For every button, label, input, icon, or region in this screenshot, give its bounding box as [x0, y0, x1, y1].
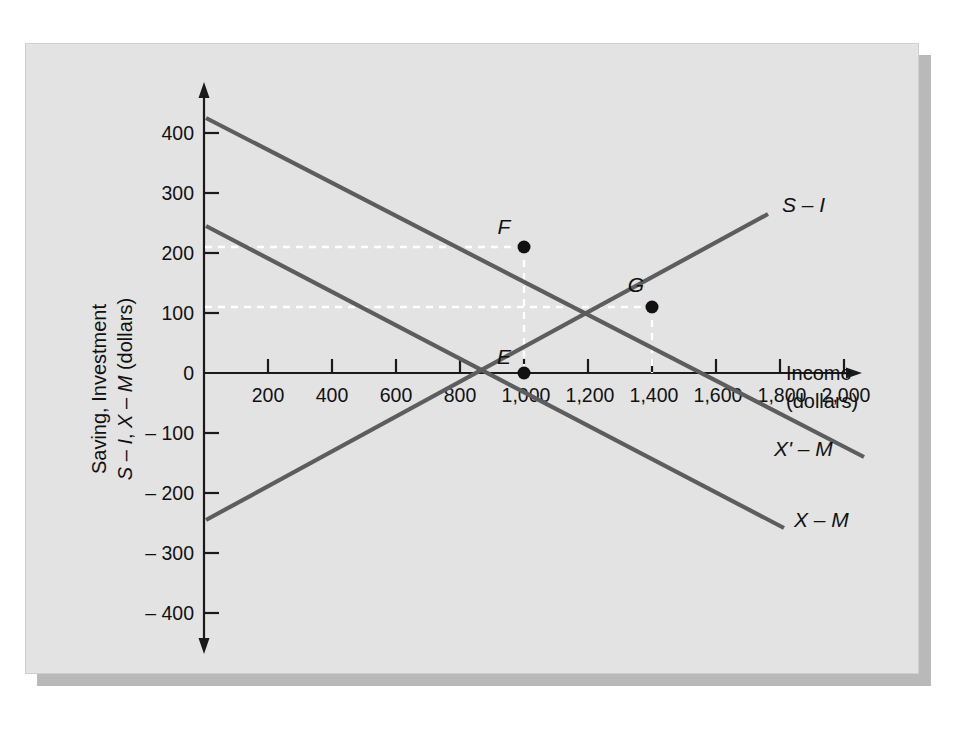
x-tick-label-200: 200 — [252, 384, 285, 406]
x-tick-label-1400: 1,400 — [630, 384, 679, 406]
point-marker-e — [518, 367, 531, 380]
curve-label-x-minus-m: X – M — [793, 508, 849, 531]
x-axis-title-line2: (dollars) — [786, 390, 858, 412]
y-axis-arrow-up — [199, 82, 210, 98]
point-marker-g — [646, 301, 659, 314]
y-axis-title-line1: Saving, Investment — [88, 304, 110, 475]
y-tick-label-neg300: – 300 — [145, 542, 194, 564]
y-tick-label-0: 0 — [183, 362, 194, 384]
curve-label-s-minus-i: S – I — [782, 193, 825, 216]
chart-panel: 400 300 200 100 0 – 100 – 200 – 300 – 40… — [25, 43, 919, 674]
y-axis-tick-labels: 400 300 200 100 0 – 100 – 200 – 300 – 40… — [145, 122, 194, 624]
y-title-units: (dollars) — [114, 298, 136, 376]
chart-plot-area: 400 300 200 100 0 – 100 – 200 – 300 – 40… — [26, 44, 919, 674]
x-axis-title-line1: Income — [786, 362, 852, 384]
x-axis — [204, 368, 862, 379]
y-axis-title: Saving, Investment S – I, X – M (dollars… — [88, 298, 136, 480]
x-tick-label-600: 600 — [380, 384, 413, 406]
y-title-dash-2: – — [114, 392, 136, 414]
y-title-sym-x: X — [114, 414, 136, 429]
y-axis — [199, 82, 210, 654]
curve-x-minus-m — [206, 226, 784, 528]
point-label-e: E — [497, 345, 512, 368]
y-axis-arrow-down — [199, 638, 210, 654]
y-title-dash-1: – — [114, 445, 136, 467]
y-tick-label-300: 300 — [161, 182, 194, 204]
point-label-f: F — [498, 215, 512, 238]
point-marker-f — [518, 241, 531, 254]
y-title-sym-s: S — [114, 466, 136, 480]
y-tick-label-200: 200 — [161, 242, 194, 264]
curve-x-prime-minus-m — [206, 118, 864, 457]
point-label-g: G — [628, 273, 644, 296]
y-tick-label-neg100: – 100 — [145, 422, 194, 444]
x-tick-label-1200: 1,200 — [566, 384, 615, 406]
guide-lines — [205, 247, 652, 373]
y-axis-title-line2: S – I, X – M (dollars) — [114, 298, 136, 480]
figure-root: 400 300 200 100 0 – 100 – 200 – 300 – 40… — [0, 0, 957, 734]
x-tick-label-1600: 1,600 — [694, 384, 743, 406]
y-tick-label-100: 100 — [161, 302, 194, 324]
y-title-sym-m: M — [114, 375, 136, 392]
x-axis-tick-labels: 200 400 600 800 1,000 1,200 1,400 1,600 … — [252, 384, 871, 406]
curve-label-x-prime-minus-m: X' – M — [773, 437, 833, 460]
x-axis-ticks — [268, 359, 844, 373]
y-title-comma: , — [114, 428, 136, 439]
y-tick-label-400: 400 — [161, 122, 194, 144]
y-tick-label-neg200: – 200 — [145, 482, 194, 504]
x-tick-label-400: 400 — [316, 384, 349, 406]
y-tick-label-neg400: – 400 — [145, 602, 194, 624]
